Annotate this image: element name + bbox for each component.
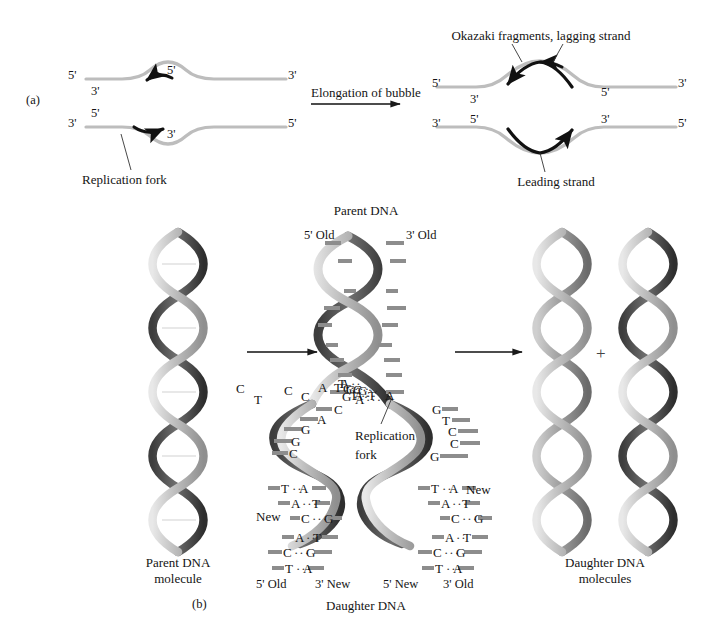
daughter-dna-molecules-label-line1: Daughter DNA — [565, 555, 645, 571]
left-bubble-5prime-top: 5' — [68, 68, 77, 83]
daughter-right-base-right-5: A — [453, 561, 463, 577]
daughter-left-base-right-2: G — [324, 511, 334, 527]
parent-base-right-2: C — [284, 383, 293, 399]
parent-base-left-8: T — [350, 388, 358, 404]
parent-dna-molecule-label-line2: molecule — [154, 571, 202, 587]
daughter-right-base-left-4: C — [433, 545, 442, 561]
daughter-right-base-right-0: A — [449, 481, 459, 497]
parent-base-right-3: C — [301, 389, 310, 405]
right-bubble-inner-3prime-topleft: 3' — [470, 92, 479, 107]
left-bubble-3prime-bottom: 3' — [68, 116, 77, 131]
daughter-left-base-left-4: C — [283, 545, 292, 561]
parent-base-right-8: A — [385, 388, 395, 404]
panel-a-left-bubble — [86, 62, 286, 170]
fork-unpaired-left-1: A — [317, 412, 327, 428]
left-bubble-inner-5prime-topright: 5' — [167, 63, 176, 78]
fork-unpaired-right-0: G — [432, 402, 442, 418]
parent-right-end-label: 3' Old — [406, 228, 436, 243]
daughter-left-base-right-1: T — [312, 496, 320, 512]
daughter-left-base-left-3: A — [295, 530, 305, 546]
daughter-dna-helix-2 — [623, 232, 674, 552]
right-bubble-5prime-right-bottom: 5' — [678, 116, 687, 131]
daughter-right-base-left-5: T — [435, 561, 443, 577]
fork-unpaired-left-4: C — [289, 446, 298, 462]
daughter-left-base-right-5: A — [303, 561, 313, 577]
plus-sign: + — [596, 344, 606, 364]
daughter-right-base-right-2: G — [474, 511, 484, 527]
dna-replication-figure: (a) 5' 3' 3' 5' 3' 5' 5' 3' Replication … — [0, 0, 705, 627]
right-bubble-inner-3prime-bottomright: 3' — [601, 112, 610, 127]
right-bubble-5prime-top: 5' — [432, 76, 441, 91]
panel-a-label: (a) — [26, 93, 40, 108]
daughter-left-base-right-0: A — [299, 481, 309, 497]
daughter-left-base-right-3: T — [313, 530, 321, 546]
daughter-left-base-left-1: A — [291, 496, 301, 512]
left-bubble-5prime-right-bottom: 5' — [288, 116, 297, 131]
daughter-end-label-3: 3' Old — [443, 577, 473, 592]
panel-b-label: (b) — [192, 597, 207, 612]
parent-base-right-0: C — [236, 381, 245, 397]
daughter-end-label-2: 5' New — [383, 577, 418, 592]
daughter-end-label-1: 3' New — [315, 577, 350, 592]
daughter-left-base-left-0: T — [281, 481, 289, 497]
replication-fork-callout-b-line2: fork — [355, 447, 377, 463]
right-bubble-3prime-right-top: 3' — [678, 76, 687, 91]
daughter-dna-molecules-label-line2: molecules — [579, 571, 632, 587]
daughter-end-label-0: 5' Old — [256, 577, 286, 592]
right-bubble-inner-5prime-topright: 5' — [601, 85, 610, 100]
daughter-dna-title: Daughter DNA — [326, 598, 406, 614]
daughter-right-base-left-3: A — [445, 530, 455, 546]
replication-fork-callout-a: Replication fork — [82, 172, 167, 188]
daughter-left-base-left-2: C — [301, 511, 310, 527]
parent-dna-title: Parent DNA — [334, 203, 399, 219]
fork-unpaired-left-0: C — [334, 402, 343, 418]
parent-base-right-1: T — [254, 392, 262, 408]
daughter-right-base-left-0: T — [431, 481, 439, 497]
okazaki-fragments-callout: Okazaki fragments, lagging strand — [451, 28, 630, 44]
daughter-left-base-right-4: G — [306, 545, 316, 561]
daughter-right-base-right-1: T — [462, 496, 470, 512]
fork-unpaired-left-2: G — [301, 422, 311, 438]
elongation-of-bubble-label: Elongation of bubble — [311, 85, 421, 101]
left-bubble-inner-3prime-topleft: 3' — [91, 84, 100, 99]
fork-unpaired-right-4: G — [430, 449, 440, 465]
daughter-right-base-left-1: A — [441, 496, 451, 512]
right-bubble-3prime-bottom: 3' — [432, 116, 441, 131]
parent-dna-molecule-label-line1: Parent DNA — [146, 555, 211, 571]
parent-base-right-5: T — [338, 376, 346, 392]
right-bubble-inner-5prime-bottomleft: 5' — [470, 112, 479, 127]
daughter-dna-helix-1 — [537, 232, 588, 552]
daughter-left-base-left-5: T — [285, 561, 293, 577]
parent-base-dash-8: ··· — [361, 388, 377, 404]
parent-dna-helix — [153, 232, 204, 552]
parent-left-end-label: 5' Old — [304, 228, 334, 243]
left-bubble-3prime-right-top: 3' — [288, 68, 297, 83]
daughter-right-base-left-2: C — [451, 511, 460, 527]
parent-base-right-4: A — [318, 380, 328, 396]
left-bubble-inner-3prime-bottomright: 3' — [167, 127, 176, 142]
daughter-right-base-right-4: G — [456, 545, 466, 561]
daughter-right-base-right-3: T — [463, 530, 471, 546]
new-strand-label-left: New — [256, 509, 281, 525]
fork-unpaired-right-3: C — [450, 436, 459, 452]
replication-fork-callout-b-line1: Replication — [355, 428, 415, 444]
panel-a-right-bubble — [437, 44, 676, 172]
leading-strand-callout: Leading strand — [517, 174, 595, 190]
left-bubble-inner-5prime-bottomleft: 5' — [91, 106, 100, 121]
